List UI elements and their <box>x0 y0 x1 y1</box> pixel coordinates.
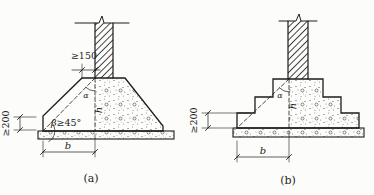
dim-label-b-a: b <box>65 140 71 151</box>
dim-label-edge-height-a: ≥200 <box>0 110 11 136</box>
dim-label-b-b: b <box>260 145 266 156</box>
column-hatch-b <box>288 21 308 79</box>
bedding-layer-a <box>38 131 174 139</box>
diagram-a: α β≥45° h ≥150 ≥200 b (a) <box>0 16 174 185</box>
column-break-line-a <box>75 16 129 23</box>
diagram-b: α h ≥200 b (b) <box>188 14 364 187</box>
bedding-layer-b <box>233 128 364 137</box>
beta-angle-label-a: β≥45° <box>50 117 81 128</box>
footing-height-label-b: h <box>287 103 298 109</box>
caption-a: (a) <box>83 172 98 185</box>
figure-canvas: α β≥45° h ≥150 ≥200 b (a) <box>0 0 374 195</box>
beta-min-value-a: ≥45° <box>57 117 82 128</box>
foundation-diagram-svg: α β≥45° h ≥150 ≥200 b (a) <box>0 0 374 195</box>
alpha-angle-label-a: α <box>83 91 89 100</box>
footing-concrete-texture-b <box>289 79 359 128</box>
dim-ext-edge-height-a <box>14 117 36 130</box>
footing-concrete-texture-a <box>95 78 163 131</box>
footing-height-label-a: h <box>93 107 104 113</box>
alpha-angle-label-b: α <box>277 91 283 100</box>
column-break-line-b <box>279 14 317 21</box>
caption-b: (b) <box>280 174 296 187</box>
dim-label-edge-height-b: ≥200 <box>188 107 199 133</box>
dim-label-top-ledge-a: ≥150 <box>71 50 97 61</box>
